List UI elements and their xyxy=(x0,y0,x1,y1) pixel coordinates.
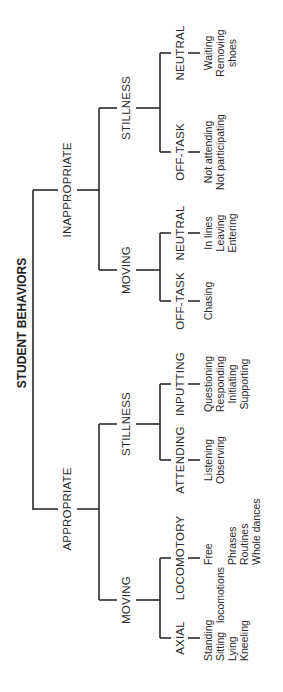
inputting-items: Questioning Responding Initiating Suppor… xyxy=(202,356,250,412)
offtask-items: Not attending Not participating xyxy=(202,114,226,190)
inputting-label: INPUTTING xyxy=(174,352,186,416)
locomotory-items: Free locomotions Phrases Routines Whole … xyxy=(202,498,262,623)
svg-text:locomotions: locomotions xyxy=(214,567,226,623)
neutral-items: Waiting Removing shoes xyxy=(202,29,238,76)
appropriate-moving: MOVING LOCOMOTORY Free locomotions Phras… xyxy=(99,498,262,661)
svg-text:Supporting: Supporting xyxy=(238,358,250,409)
svg-text:Questioning: Questioning xyxy=(202,356,214,412)
stillness-label: STILLNESS xyxy=(120,76,132,140)
svg-text:Entering: Entering xyxy=(226,213,238,252)
appropriate-label: APPROPRIATE xyxy=(61,467,73,550)
neutral-items: In lines Leaving Entering xyxy=(202,213,238,252)
svg-text:Chasing: Chasing xyxy=(202,282,214,321)
inappropriate-stillness: STILLNESS NEUTRAL Waiting Removing shoes… xyxy=(99,25,238,190)
svg-text:shoes: shoes xyxy=(226,39,238,67)
svg-text:Waiting: Waiting xyxy=(202,36,214,71)
appropriate-branch: APPROPRIATE STILLNESS INPUTTING Question… xyxy=(33,352,262,661)
appropriate-stillness: STILLNESS INPUTTING Questioning Respondi… xyxy=(99,352,250,494)
inappropriate-label: INAPPROPRIATE xyxy=(61,142,73,237)
svg-text:Not participating: Not participating xyxy=(214,114,226,190)
svg-text:Listening: Listening xyxy=(202,439,214,481)
neutral-label: NEUTRAL xyxy=(174,25,186,80)
svg-text:Lying: Lying xyxy=(226,636,238,661)
offtask-label: OFF-TASK xyxy=(174,123,186,181)
stillness-label: STILLNESS xyxy=(120,392,132,456)
svg-text:Standing: Standing xyxy=(202,619,214,661)
svg-text:In lines: In lines xyxy=(202,216,214,249)
svg-text:Sitting: Sitting xyxy=(214,632,226,661)
moving-label: MOVING xyxy=(120,246,132,294)
root-node: STUDENT BEHAVIORS xyxy=(15,190,33,510)
svg-text:Initiating: Initiating xyxy=(226,364,238,403)
svg-text:Phrases: Phrases xyxy=(226,526,238,565)
axial-label: AXIAL xyxy=(174,621,186,655)
svg-text:Leaving: Leaving xyxy=(214,214,226,251)
svg-text:Removing: Removing xyxy=(214,29,226,76)
svg-text:Observing: Observing xyxy=(214,436,226,484)
offtask-label: OFF-TASK xyxy=(174,272,186,330)
svg-text:Routines: Routines xyxy=(238,524,250,565)
attending-label: ATTENDING xyxy=(174,426,186,493)
attending-items: Listening Observing xyxy=(202,436,226,484)
svg-text:Free: Free xyxy=(202,543,214,565)
behavior-tree-diagram: STUDENT BEHAVIORS INAPPROPRIATE STILLNES… xyxy=(0,0,283,692)
inappropriate-branch: INAPPROPRIATE STILLNESS NEUTRAL Waiting … xyxy=(33,25,238,330)
svg-text:Kneeling: Kneeling xyxy=(238,620,250,661)
diagram-title: STUDENT BEHAVIORS xyxy=(15,258,29,388)
locomotory-label: LOCOMOTORY xyxy=(174,516,186,601)
axial-items: Standing Sitting Lying Kneeling xyxy=(202,619,250,661)
inappropriate-moving: MOVING NEUTRAL In lines Leaving Entering… xyxy=(99,205,238,330)
neutral-label: NEUTRAL xyxy=(174,205,186,260)
svg-text:Not attending: Not attending xyxy=(202,121,214,184)
svg-text:Whole dances: Whole dances xyxy=(250,498,262,565)
moving-label: MOVING xyxy=(120,576,132,624)
offtask-items: Chasing xyxy=(202,282,214,321)
svg-text:Responding: Responding xyxy=(214,356,226,412)
